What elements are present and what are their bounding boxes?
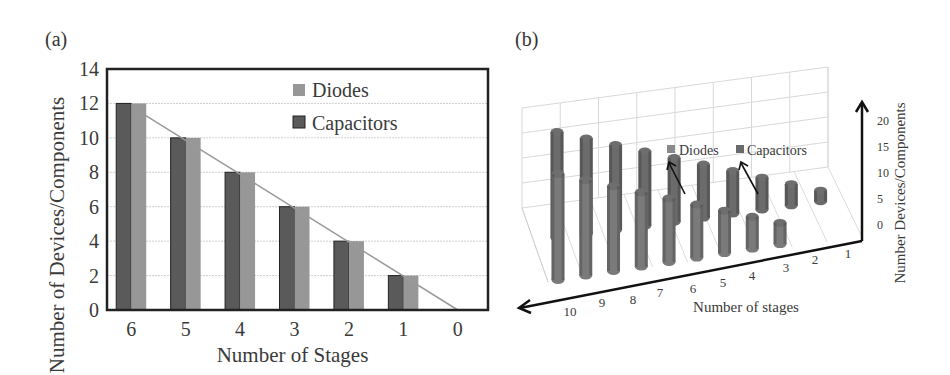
cylinder-capacitors: [814, 187, 827, 206]
legend-swatch-capacitors: [736, 145, 744, 153]
z-tick-label: 10: [877, 166, 889, 180]
x-axis-label: Number of stages: [693, 299, 799, 315]
x-tick-label: 5: [720, 275, 727, 290]
z-axis-label: Number Devices/Components: [892, 102, 908, 283]
x-tick-label: 4: [749, 268, 756, 283]
cylinder-diodes: [746, 213, 759, 253]
z-tick-label: 20: [877, 114, 889, 128]
z-tick-label: 15: [877, 140, 889, 154]
cylinder-diodes: [607, 182, 620, 275]
cylinder-diodes: [579, 176, 592, 279]
legend-label-diodes: Diodes: [679, 143, 719, 158]
cylinder-diodes: [635, 188, 648, 270]
legend-label-capacitors: Capacitors: [747, 143, 807, 158]
legend-swatch-diodes: [667, 145, 675, 153]
chart-b-3d-bar-chart: 0510152010987654321Number of stagesNumbe…: [0, 0, 950, 375]
cylinder-diodes: [690, 201, 703, 262]
x-tick-label: 9: [599, 295, 606, 310]
x-tick-label: 1: [845, 246, 852, 261]
x-tick-label: 7: [657, 285, 664, 300]
z-tick-label: 5: [877, 192, 883, 206]
x-tick-label: 3: [783, 260, 790, 275]
cylinder-diodes: [774, 219, 787, 248]
cylinder-capacitors: [785, 180, 798, 209]
cylinder-diodes: [663, 194, 676, 266]
cylinder-diodes: [718, 207, 731, 257]
cylinder-diodes: [552, 170, 565, 284]
x-tick-label: 6: [690, 281, 697, 296]
x-tick-label: 10: [564, 304, 577, 319]
x-tick-label: 8: [630, 292, 637, 307]
x-tick-label: 2: [812, 252, 819, 267]
z-tick-label: 0: [877, 218, 883, 232]
